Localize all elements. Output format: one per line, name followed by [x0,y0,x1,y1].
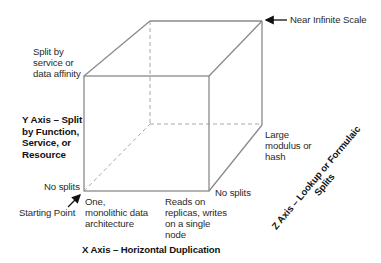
top-left-depth-edge [84,21,150,76]
starting-point-arrow-icon [68,195,80,207]
starting-point-label: Starting Point [19,207,75,218]
cube-hidden-edges [84,21,262,191]
z-axis-top-label: Large modulus or hash [265,129,311,162]
z-axis-bottom-label: No splits [215,187,251,198]
x-axis-title: X Axis – Horizontal Duplication [82,244,220,255]
cube-visible-edges [84,21,262,191]
y-axis-title: Y Axis – Split by Function, Service, or … [22,114,82,160]
x-axis-right-label: Reads on replicas, writes on a single no… [165,196,227,240]
top-right-depth-edge [209,21,262,76]
y-axis-bottom-label: No splits [44,181,80,192]
bottom-left-depth-edge [84,124,150,191]
bottom-right-depth-edge [209,125,262,191]
near-infinite-scale-label: Near Infinite Scale [290,14,367,25]
x-axis-left-label: One, monolithic data architecture [85,196,148,229]
y-axis-top-label: Split by service or data affinity [33,46,81,79]
front-face [84,76,209,191]
